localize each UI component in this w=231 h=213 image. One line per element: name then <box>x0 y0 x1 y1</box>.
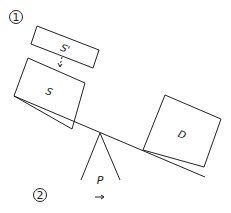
marker-1-text: 1 <box>13 11 20 24</box>
fulcrum-label: P <box>97 174 104 187</box>
block-s-label: S <box>44 85 54 98</box>
marker-1: 1 <box>10 11 23 25</box>
block-s-prime: S' <box>31 26 99 68</box>
marker-2: 2 <box>34 189 47 203</box>
block-d-label: D <box>177 128 188 141</box>
marker-2-text: 2 <box>37 189 44 202</box>
fulcrum: P <box>81 133 120 199</box>
block-s: S <box>14 58 85 129</box>
balance-diagram: 1 S' S D P 2 <box>0 0 231 213</box>
block-s-prime-label: S' <box>59 42 71 56</box>
